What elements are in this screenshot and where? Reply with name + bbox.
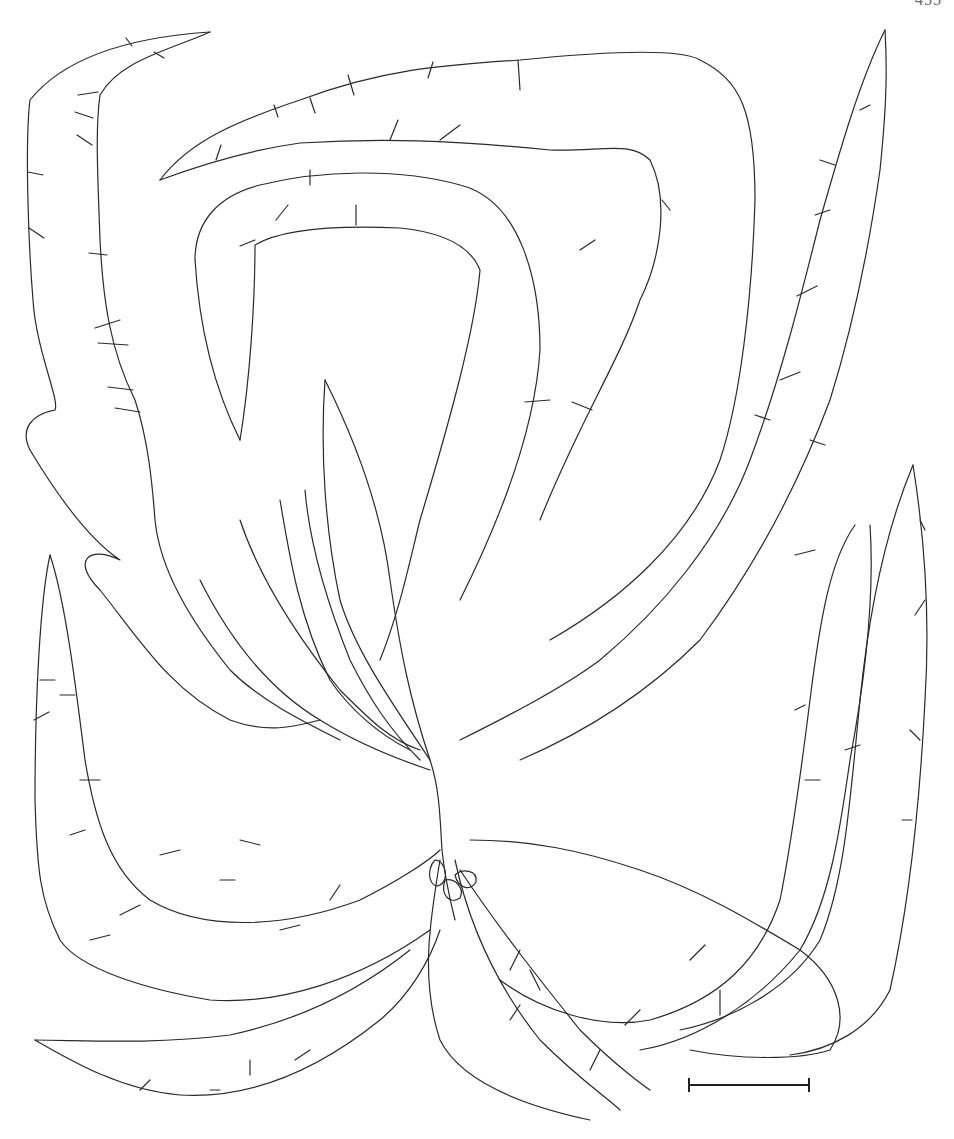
- blade-right-tall-inner: [520, 30, 886, 760]
- blade-center-fan-1: [240, 520, 420, 750]
- stipe: [430, 760, 455, 920]
- blade-right-lower: [470, 840, 840, 1058]
- blade-top-inner: [160, 140, 661, 520]
- blade-far-right: [680, 465, 913, 1030]
- seaweed-illustration: [0, 0, 954, 1139]
- blade-bottom-center-2: [460, 870, 650, 1090]
- blade-inner-hook-inner: [240, 227, 480, 660]
- scale-bar-right-cap: [808, 1078, 810, 1092]
- blade-bottom-center-1: [428, 860, 590, 1120]
- blade-left-lower-2-inner: [35, 950, 410, 1041]
- blade-left-lower-2: [35, 930, 440, 1095]
- blade-far-right-inner: [790, 465, 927, 1055]
- blade-right-tall: [460, 30, 885, 740]
- scale-bar-line: [688, 1084, 810, 1086]
- blade-left-lower-1: [35, 555, 430, 1001]
- blade-center-fan-2: [280, 500, 410, 750]
- blade-top: [160, 52, 755, 640]
- blade-left-tall: [26, 32, 320, 728]
- scale-bar: [688, 1078, 810, 1092]
- blade-center-fan-4-inner: [325, 380, 430, 760]
- blade-right-mid-inner: [640, 525, 871, 1050]
- blade-left-lower-1-inner: [50, 555, 440, 923]
- blade-center-fan-4: [323, 380, 430, 760]
